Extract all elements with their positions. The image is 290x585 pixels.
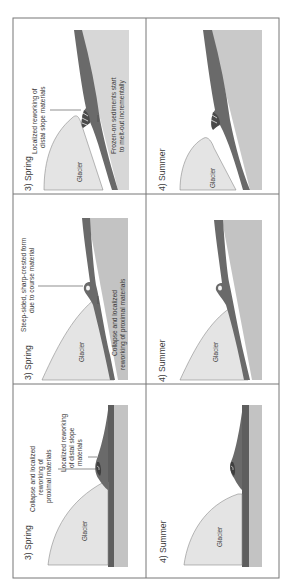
panel-title: 3) Spring <box>23 345 33 380</box>
glacier-label: Glacier <box>212 341 219 362</box>
panel-title: 3) Spring <box>23 156 33 191</box>
panel-title: 4) Summer <box>158 520 168 563</box>
annotation-text: of distal slope <box>68 427 76 468</box>
annotation-text: Steep-sided, sharp-crested form <box>20 237 28 332</box>
annotation-text: Collapse and localized <box>29 446 37 512</box>
panel-row2-summer: 4) Summer Glacier <box>157 220 262 382</box>
annotation-text: proximal materials <box>45 449 53 503</box>
panel-title: 4) Summer <box>157 339 167 382</box>
annotation-text: reworking of <box>37 459 45 495</box>
glacial-landform-diagram: 3) Spring Glacier Localized reworking of… <box>0 0 290 585</box>
panel-row2-spring: 3) Spring Glacier Steep-sided, sharp-cre… <box>20 218 128 380</box>
glacier-label: Glacier <box>78 341 85 362</box>
glacier-label: Glacier <box>81 520 88 541</box>
annotation-text: materials <box>76 439 83 466</box>
annotation-text: distal slope materials <box>39 86 47 148</box>
annotation-text: Collapse and localized <box>111 290 119 356</box>
panel-row3-summer: 4) Summer Glacier <box>158 405 262 567</box>
glacier-shape <box>184 494 242 565</box>
annotation-text: to melt-out incrementally <box>118 79 126 152</box>
annotation-text: Localized reworking of <box>31 88 39 154</box>
annotation-text: reworking of proximal materials <box>119 278 127 370</box>
glacier-label: Glacier <box>216 526 223 547</box>
panel-title: 4) Summer <box>157 148 167 191</box>
glacier-label: Glacier <box>76 161 83 182</box>
annotation-text: due to course material <box>28 247 35 313</box>
panel-title: 3) Spring <box>23 525 33 560</box>
glacier-label: Glacier <box>209 167 216 188</box>
panel-row1-spring: 3) Spring Glacier Localized reworking of… <box>23 30 129 191</box>
annotation-text: Frozen-on sediments start <box>110 77 117 154</box>
panel-row1-summer: 4) Summer Glacier <box>157 30 262 191</box>
glacier-shape <box>180 138 236 190</box>
panel-row3-spring: 3) Spring Glacier Collapse and localized… <box>23 405 128 567</box>
annotation-text: Localized reworking <box>60 413 68 472</box>
glacier-shape <box>48 482 108 565</box>
